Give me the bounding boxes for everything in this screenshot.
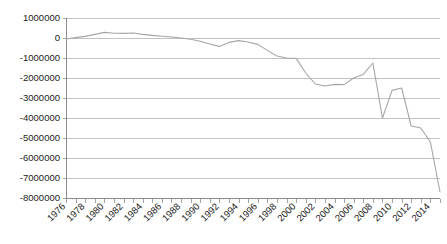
x-tick-label-19: 2014	[409, 201, 432, 224]
x-tick-label-14: 2004	[313, 201, 336, 224]
x-tick-label-11: 1998	[256, 201, 279, 224]
x-tick-label-10: 1996	[236, 201, 259, 224]
x-tick-label-4: 1984	[121, 201, 144, 224]
y-tick-label-8: -7000000	[20, 172, 60, 183]
y-tick-label-3: -2000000	[20, 72, 60, 83]
x-tick-label-2: 1980	[83, 201, 106, 224]
x-tick-label-13: 2002	[294, 201, 317, 224]
x-tick-labels-group: 1976197819801982198419861988199019921994…	[45, 201, 432, 224]
line-chart: 10000000-1000000-2000000-3000000-4000000…	[0, 0, 447, 244]
x-tick-label-15: 2006	[332, 201, 355, 224]
y-tick-label-2: -1000000	[20, 52, 60, 63]
x-tick-label-3: 1982	[102, 201, 125, 224]
x-tick-label-12: 2000	[275, 201, 298, 224]
x-tick-label-5: 1986	[141, 201, 164, 224]
y-tick-label-0: 1000000	[23, 12, 60, 23]
x-tick-label-17: 2010	[371, 201, 394, 224]
gridlines-group	[66, 19, 440, 179]
axis-group	[63, 18, 441, 199]
x-tick-label-6: 1988	[160, 201, 183, 224]
x-tick-label-0: 1976	[45, 201, 68, 224]
y-tick-label-1: 0	[55, 32, 60, 43]
x-tick-label-1: 1978	[64, 201, 87, 224]
y-tick-labels-group: 10000000-1000000-2000000-3000000-4000000…	[20, 12, 60, 203]
x-tick-label-7: 1990	[179, 201, 202, 224]
y-tick-label-4: -3000000	[20, 92, 60, 103]
y-tick-label-7: -6000000	[20, 152, 60, 163]
y-tick-label-5: -4000000	[20, 112, 60, 123]
series-line-1	[66, 32, 440, 192]
x-tick-label-8: 1992	[198, 201, 221, 224]
x-tick-label-9: 1994	[217, 201, 240, 224]
x-tick-label-16: 2008	[352, 201, 375, 224]
y-tick-label-9: -8000000	[20, 192, 60, 203]
x-tick-label-18: 2012	[390, 201, 413, 224]
y-tick-label-6: -5000000	[20, 132, 60, 143]
data-series-group	[66, 32, 440, 192]
chart-container: 10000000-1000000-2000000-3000000-4000000…	[0, 0, 447, 244]
